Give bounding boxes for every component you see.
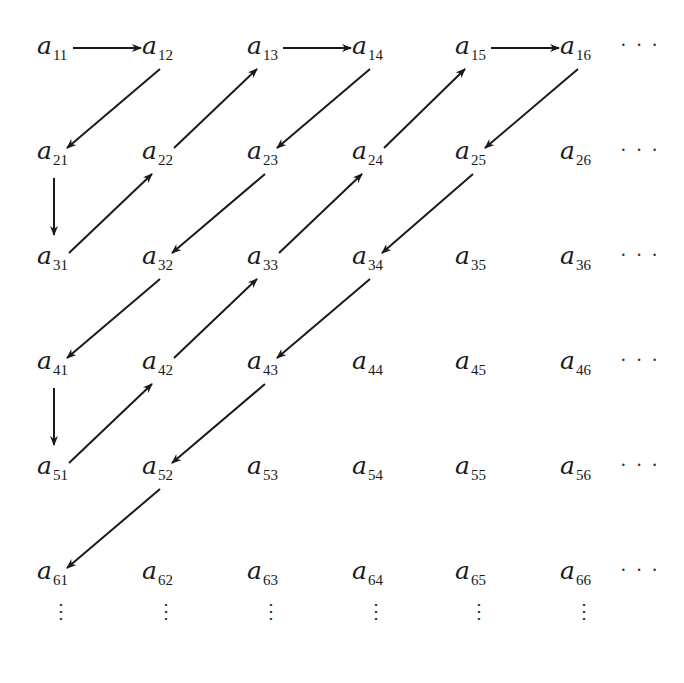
entry-symbol: a bbox=[247, 241, 262, 270]
matrix-entry-a15: a15 bbox=[455, 33, 486, 58]
entry-subscript: 65 bbox=[471, 572, 486, 588]
matrix-entry-a32: a32 bbox=[142, 243, 173, 268]
matrix-entry-a62: a62 bbox=[142, 558, 173, 583]
matrix-entry-a24: a24 bbox=[352, 138, 383, 163]
entry-symbol: a bbox=[247, 346, 262, 375]
row-continuation-dots: · · · bbox=[620, 140, 660, 160]
entry-symbol: a bbox=[560, 31, 575, 60]
matrix-entry-a54: a54 bbox=[352, 453, 383, 478]
entry-symbol: a bbox=[247, 136, 262, 165]
matrix-entry-a26: a26 bbox=[560, 138, 591, 163]
entry-symbol: a bbox=[455, 451, 470, 480]
matrix-entry-a36: a36 bbox=[560, 243, 591, 268]
entry-subscript: 42 bbox=[158, 362, 173, 378]
matrix-entry-a65: a65 bbox=[455, 558, 486, 583]
entry-subscript: 13 bbox=[263, 47, 278, 63]
entry-subscript: 35 bbox=[471, 257, 486, 273]
entry-subscript: 52 bbox=[158, 467, 173, 483]
row-continuation-dots: · · · bbox=[620, 350, 660, 370]
column-continuation-dots: ⋮ bbox=[469, 606, 479, 616]
arrow-a24-to-a15 bbox=[384, 69, 465, 148]
entry-symbol: a bbox=[247, 31, 262, 60]
matrix-entry-a34: a34 bbox=[352, 243, 383, 268]
entry-subscript: 14 bbox=[368, 47, 383, 63]
entry-subscript: 44 bbox=[368, 362, 383, 378]
entry-symbol: a bbox=[142, 556, 157, 585]
entry-subscript: 46 bbox=[576, 362, 591, 378]
matrix-entry-a42: a42 bbox=[142, 348, 173, 373]
arrow-a22-to-a13 bbox=[174, 69, 257, 148]
entry-subscript: 31 bbox=[53, 257, 68, 273]
entry-symbol: a bbox=[37, 241, 52, 270]
entry-symbol: a bbox=[37, 136, 52, 165]
matrix-entry-a13: a13 bbox=[247, 33, 278, 58]
entry-symbol: a bbox=[37, 31, 52, 60]
entry-subscript: 51 bbox=[53, 467, 68, 483]
matrix-entry-a63: a63 bbox=[247, 558, 278, 583]
column-continuation-dots: ⋮ bbox=[574, 606, 584, 616]
entry-symbol: a bbox=[142, 451, 157, 480]
entry-subscript: 21 bbox=[53, 152, 68, 168]
entry-symbol: a bbox=[560, 451, 575, 480]
entry-symbol: a bbox=[455, 241, 470, 270]
entry-subscript: 32 bbox=[158, 257, 173, 273]
matrix-entry-a14: a14 bbox=[352, 33, 383, 58]
entry-symbol: a bbox=[560, 136, 575, 165]
row-continuation-dots: · · · bbox=[620, 35, 660, 55]
entry-symbol: a bbox=[352, 451, 367, 480]
entry-subscript: 26 bbox=[576, 152, 591, 168]
entry-symbol: a bbox=[455, 346, 470, 375]
matrix-entry-a43: a43 bbox=[247, 348, 278, 373]
entry-symbol: a bbox=[455, 556, 470, 585]
entry-symbol: a bbox=[352, 136, 367, 165]
matrix-entry-a66: a66 bbox=[560, 558, 591, 583]
matrix-entry-a45: a45 bbox=[455, 348, 486, 373]
matrix-entry-a11: a11 bbox=[37, 33, 67, 58]
entry-subscript: 25 bbox=[471, 152, 486, 168]
matrix-entry-a25: a25 bbox=[455, 138, 486, 163]
entry-symbol: a bbox=[560, 241, 575, 270]
entry-symbol: a bbox=[352, 346, 367, 375]
entry-subscript: 45 bbox=[471, 362, 486, 378]
row-continuation-dots: · · · bbox=[620, 455, 660, 475]
matrix-entry-a64: a64 bbox=[352, 558, 383, 583]
arrow-a31-to-a22 bbox=[69, 174, 152, 253]
entry-subscript: 53 bbox=[263, 467, 278, 483]
entry-subscript: 16 bbox=[576, 47, 591, 63]
row-continuation-dots: · · · bbox=[620, 560, 660, 580]
entry-symbol: a bbox=[247, 451, 262, 480]
entry-subscript: 12 bbox=[158, 47, 173, 63]
matrix-entry-a61: a61 bbox=[37, 558, 68, 583]
entry-symbol: a bbox=[37, 346, 52, 375]
matrix-entry-a55: a55 bbox=[455, 453, 486, 478]
column-continuation-dots: ⋮ bbox=[366, 606, 376, 616]
entry-subscript: 62 bbox=[158, 572, 173, 588]
entry-symbol: a bbox=[560, 556, 575, 585]
matrix-entry-a12: a12 bbox=[142, 33, 173, 58]
matrix-entry-a41: a41 bbox=[37, 348, 68, 373]
entry-symbol: a bbox=[247, 556, 262, 585]
matrix-entry-a51: a51 bbox=[37, 453, 68, 478]
entry-subscript: 56 bbox=[576, 467, 591, 483]
arrow-a42-to-a33 bbox=[174, 279, 257, 358]
column-continuation-dots: ⋮ bbox=[51, 606, 61, 616]
entry-symbol: a bbox=[142, 31, 157, 60]
entry-subscript: 66 bbox=[576, 572, 591, 588]
matrix-entry-a46: a46 bbox=[560, 348, 591, 373]
entry-subscript: 55 bbox=[471, 467, 486, 483]
matrix-entry-a44: a44 bbox=[352, 348, 383, 373]
entry-subscript: 43 bbox=[263, 362, 278, 378]
entry-subscript: 11 bbox=[53, 47, 67, 63]
matrix-entry-a53: a53 bbox=[247, 453, 278, 478]
entry-subscript: 24 bbox=[368, 152, 383, 168]
entry-subscript: 15 bbox=[471, 47, 486, 63]
entry-symbol: a bbox=[455, 136, 470, 165]
entry-subscript: 64 bbox=[368, 572, 383, 588]
matrix-entry-a21: a21 bbox=[37, 138, 68, 163]
matrix-entry-a16: a16 bbox=[560, 33, 591, 58]
entry-subscript: 22 bbox=[158, 152, 173, 168]
matrix-entry-a52: a52 bbox=[142, 453, 173, 478]
arrow-a33-to-a24 bbox=[279, 174, 362, 253]
column-continuation-dots: ⋮ bbox=[261, 606, 271, 616]
entry-symbol: a bbox=[352, 556, 367, 585]
